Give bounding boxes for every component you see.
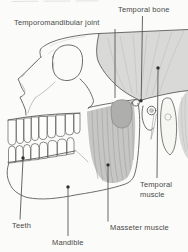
label-temporal-bone: Temporal bone (118, 5, 170, 16)
label-temporomandibular-joint: Temporomandibular joint (14, 18, 100, 29)
vertebra-outline (161, 98, 177, 155)
skull-illustration (0, 0, 188, 252)
label-mandible: Mandible (52, 238, 84, 249)
styloid-process (151, 114, 157, 139)
label-teeth: Teeth (12, 221, 31, 232)
marker-dot-mandible (66, 185, 69, 188)
ear-canal (147, 106, 156, 115)
label-masseter-muscle: Masseter muscle (110, 223, 169, 234)
orbit (53, 45, 83, 81)
marker-dot-teeth (21, 156, 24, 159)
cropped-text-remnant (12, 1, 98, 2)
marker-dot-temporal-muscle (156, 66, 159, 69)
marker-dot-masseter-muscle (106, 163, 109, 166)
label-temporal-muscle: Temporal muscle (140, 180, 186, 201)
marker-dot-temporal-bone (139, 99, 142, 102)
nasal-aperture (18, 57, 41, 115)
leader-teeth (20, 156, 25, 219)
leader-mandible (66, 185, 69, 236)
anatomy-figure: Temporal bone Temporomandibular joint Te… (0, 0, 188, 252)
masseter-muscle-shading (87, 100, 135, 183)
